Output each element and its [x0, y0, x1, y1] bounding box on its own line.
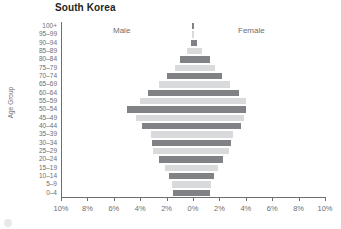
bar-female — [193, 148, 229, 154]
x-axis-tick-label: 4% — [135, 204, 146, 213]
bar-female — [193, 106, 246, 112]
bar-male — [173, 190, 193, 196]
x-axis-tick-label: 2% — [161, 204, 172, 213]
x-axis-tick — [114, 197, 115, 201]
x-axis-tick-label: 6% — [267, 204, 278, 213]
y-axis-tick-label: 15–19 — [5, 164, 57, 172]
x-axis-tick-label: 10% — [53, 204, 68, 213]
y-axis-tick-label: 60–64 — [5, 89, 57, 97]
bar-female — [193, 48, 202, 54]
bar-male — [140, 98, 193, 104]
bar-female — [193, 165, 218, 171]
y-axis-tick-label: 10–14 — [5, 172, 57, 180]
y-axis-tick-label: 0–4 — [5, 189, 57, 197]
x-axis-tick — [246, 197, 247, 201]
bar-male — [175, 65, 193, 71]
bar-female — [193, 190, 210, 196]
bar-female — [193, 65, 215, 71]
bar-male — [165, 165, 193, 171]
population-pyramid-chart: South Korea Age Group Male Female 10%8%6… — [0, 0, 341, 229]
bar-male — [142, 123, 193, 129]
bar-male — [167, 73, 193, 79]
y-axis-tick-label: 20–24 — [5, 155, 57, 163]
y-axis-tick-label: 35–39 — [5, 130, 57, 138]
x-axis-tick — [87, 197, 88, 201]
y-axis-tick-label: 85–89 — [5, 47, 57, 55]
x-axis-tick-label: 4% — [240, 204, 251, 213]
bar-male — [152, 140, 193, 146]
x-axis-tick — [299, 197, 300, 201]
x-axis-tick-label: 8% — [82, 204, 93, 213]
y-axis-tick-label: 30–34 — [5, 139, 57, 147]
bar-male — [172, 181, 193, 187]
bar-male — [159, 81, 193, 87]
y-axis-tick-label: 65–69 — [5, 80, 57, 88]
x-axis-tick-label: 0% — [188, 204, 199, 213]
bar-female — [193, 73, 222, 79]
y-axis-tick-label: 45–49 — [5, 114, 57, 122]
plot-area: 10%8%6%4%2%0%2%4%6%8%10% — [61, 22, 325, 197]
y-axis-tick-label: 100+ — [5, 22, 57, 30]
bar-female — [193, 98, 246, 104]
bar-female — [193, 131, 233, 137]
bar-female — [193, 181, 211, 187]
bar-male — [153, 148, 193, 154]
bar-female — [193, 140, 231, 146]
bar-male — [151, 131, 193, 137]
y-axis-tick-label: 25–29 — [5, 147, 57, 155]
y-axis-tick-label: 5–9 — [5, 180, 57, 188]
y-axis-tick-label: 70–74 — [5, 72, 57, 80]
bar-female — [193, 31, 194, 37]
decorative-dot — [4, 219, 12, 227]
bar-female — [193, 115, 244, 121]
x-axis-tick — [272, 197, 273, 201]
x-axis-tick — [325, 197, 326, 201]
bar-male — [136, 115, 193, 121]
bar-male — [127, 106, 193, 112]
y-axis-tick-label: 50–54 — [5, 105, 57, 113]
y-axis-tick-label: 80–84 — [5, 55, 57, 63]
bar-female — [193, 40, 197, 46]
x-axis-tick — [167, 197, 168, 201]
x-axis-tick — [193, 197, 194, 201]
y-axis-line — [61, 22, 62, 197]
bar-female — [193, 123, 241, 129]
bar-female — [193, 90, 239, 96]
bar-male — [148, 90, 193, 96]
bar-female — [193, 81, 230, 87]
bar-female — [193, 56, 210, 62]
bar-female — [193, 156, 223, 162]
y-axis-tick-label: 75–79 — [5, 64, 57, 72]
x-axis-tick-label: 10% — [317, 204, 332, 213]
bar-male — [169, 173, 193, 179]
bar-male — [159, 156, 193, 162]
x-axis-tick-label: 8% — [293, 204, 304, 213]
bar-male — [180, 56, 193, 62]
y-axis-tick-label: 55–59 — [5, 97, 57, 105]
bar-female — [193, 23, 194, 29]
bar-female — [193, 173, 214, 179]
x-axis-tick — [140, 197, 141, 201]
y-axis-tick-label: 95–99 — [5, 30, 57, 38]
x-axis-tick — [61, 197, 62, 201]
chart-title: South Korea — [55, 2, 116, 13]
y-axis-tick-label: 40–44 — [5, 122, 57, 130]
x-axis-tick-label: 2% — [214, 204, 225, 213]
x-axis-tick-label: 6% — [108, 204, 119, 213]
y-axis-tick-label: 90–94 — [5, 39, 57, 47]
x-axis-tick — [219, 197, 220, 201]
